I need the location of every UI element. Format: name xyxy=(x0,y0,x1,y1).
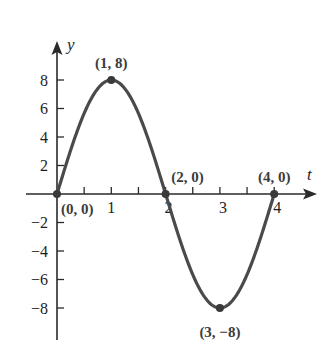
point-label: (0, 0) xyxy=(61,201,94,218)
function-graph: 12348642−2−4−6−8 (0, 0)(1, 8)(2, 0)(3, −… xyxy=(0,0,332,357)
y-tick-label: −2 xyxy=(31,214,48,231)
x-tick-label: 3 xyxy=(219,199,227,216)
x-axis-label: t xyxy=(307,165,313,184)
point-marker xyxy=(53,190,61,198)
y-tick-label: −8 xyxy=(31,300,48,317)
y-tick-label: 6 xyxy=(40,100,48,117)
point-marker xyxy=(107,76,115,84)
x-tick-label: 4 xyxy=(273,199,281,216)
y-axis-label: y xyxy=(65,35,75,54)
y-tick-label: 8 xyxy=(40,72,48,89)
point-label: (4, 0) xyxy=(258,169,291,186)
marked-points: (0, 0)(1, 8)(2, 0)(3, −8)(4, 0) xyxy=(53,55,290,341)
y-tick-label: −6 xyxy=(31,271,48,288)
point-marker xyxy=(270,190,278,198)
x-tick-label: 1 xyxy=(107,199,115,216)
point-marker xyxy=(162,190,170,198)
y-tick-label: −4 xyxy=(31,243,48,260)
y-tick-label: 2 xyxy=(40,157,48,174)
point-label: (3, −8) xyxy=(199,324,240,341)
point-label: (1, 8) xyxy=(95,55,128,72)
y-tick-label: 4 xyxy=(40,129,48,146)
point-label: (2, 0) xyxy=(171,169,204,186)
point-marker xyxy=(216,304,224,312)
